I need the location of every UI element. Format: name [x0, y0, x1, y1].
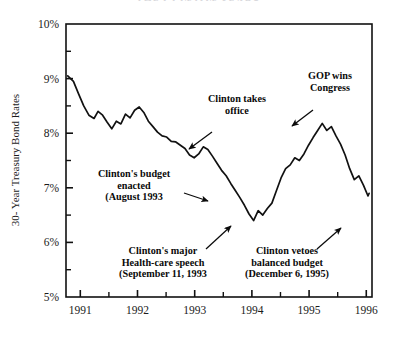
y-tick-label: 9% — [44, 73, 60, 85]
y-tick-label: 10% — [38, 18, 60, 30]
annotation-arrow — [292, 110, 313, 126]
annotation-arrow — [184, 193, 208, 201]
x-tick-label: 1995 — [298, 304, 321, 316]
chart-figure: THE CLINTON YEARS 10%9%8%7%6%5% 19911992… — [0, 0, 395, 337]
annotation-clinton-takes-office: Clinton takesoffice — [189, 93, 266, 149]
y-tick-label: 8% — [44, 127, 60, 139]
annotation-label: Clinton takesoffice — [208, 93, 266, 116]
annotation-arrow — [317, 228, 341, 249]
plot-frame — [66, 24, 372, 297]
annotation-clinton-vetoes-balanced-budget: Clinton vetoesbalanced budget(December 6… — [245, 228, 341, 280]
annotation-label: Clinton vetoesbalanced budget(December 6… — [245, 245, 329, 280]
x-tick-label: 1991 — [69, 304, 92, 316]
annotation-label: Clinton's budgetenacted(August 1993 — [98, 168, 171, 203]
x-tick-label: 1994 — [240, 304, 263, 316]
y-tick-label: 6% — [44, 236, 60, 248]
annotation-clintons-health-care-speech: Clinton's majorHealth-care speech(Septem… — [119, 226, 231, 280]
y-tick-label: 5% — [44, 291, 60, 303]
annotation-label: GOP winsCongress — [308, 70, 352, 93]
x-tick-label: 1992 — [126, 304, 149, 316]
annotation-arrow — [189, 132, 212, 149]
annotation-arrow — [206, 226, 231, 249]
y-axis-title: 30- Year Treasury Bond Rates — [9, 94, 21, 226]
x-tick-label: 1993 — [183, 304, 206, 316]
annotation-clintons-budget-enacted: Clinton's budgetenacted(August 1993 — [98, 168, 208, 203]
y-axis-tick-labels: 10%9%8%7%6%5% — [38, 18, 60, 303]
y-tick-label: 7% — [44, 182, 60, 194]
annotation-label: Clinton's majorHealth-care speech(Septem… — [119, 245, 207, 280]
x-axis-tick-labels: 199119921993199419951996 — [69, 304, 378, 316]
treasury-bond-rate-line-chart: 10%9%8%7%6%5% 199119921993199419951996 3… — [0, 0, 395, 337]
annotation-gop-wins-congress: GOP winsCongress — [292, 70, 352, 126]
x-tick-label: 1996 — [355, 304, 378, 316]
